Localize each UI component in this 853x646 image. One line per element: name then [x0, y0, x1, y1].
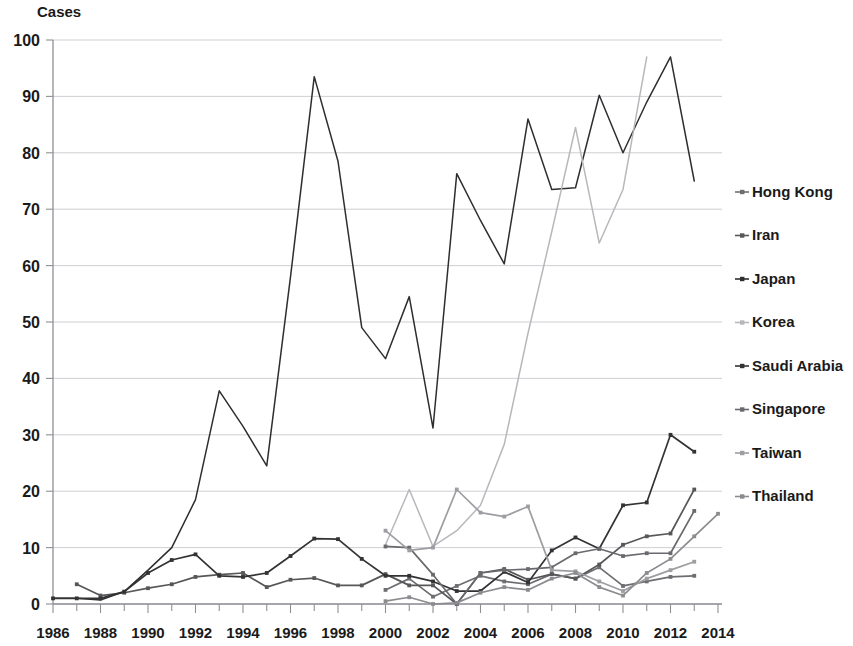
x-axis-tick-label-2008: 2008: [559, 624, 592, 641]
data-point-marker: [241, 575, 245, 579]
series-line-thailand: [386, 514, 719, 604]
data-point-marker: [597, 580, 601, 584]
data-point-marker: [407, 583, 411, 587]
legend-label: Singapore: [752, 400, 825, 417]
data-point-marker: [597, 563, 601, 567]
data-point-marker: [502, 568, 506, 572]
series-singapore: [384, 509, 697, 606]
data-point-marker: [574, 551, 578, 555]
chart-canvas: 0102030405060708090100 19861988199019921…: [0, 0, 853, 646]
x-axis-tick-label-2014: 2014: [701, 624, 735, 641]
data-point-marker: [312, 576, 316, 580]
legend-item-thailand[interactable]: Thailand: [735, 487, 814, 504]
y-axis-tick-label-60: 60: [22, 258, 40, 275]
legend-item-saudi-arabia[interactable]: Saudi Arabia: [735, 357, 844, 374]
data-point-marker: [384, 588, 388, 592]
data-point-marker: [645, 534, 649, 538]
data-point-marker: [384, 529, 388, 533]
data-point-marker: [407, 549, 411, 553]
data-point-marker: [479, 591, 483, 595]
data-point-marker: [692, 534, 696, 538]
legend-label: Japan: [752, 270, 795, 287]
data-point-marker: [265, 571, 269, 575]
data-point-marker: [669, 568, 673, 572]
x-axis-tick-label-1986: 1986: [36, 624, 69, 641]
series-line-korea: [386, 57, 647, 547]
data-point-marker: [336, 583, 340, 587]
data-point-marker: [99, 596, 103, 600]
legend-swatch-marker: [740, 277, 744, 281]
data-point-marker: [716, 512, 720, 516]
legend-swatch-marker: [740, 364, 744, 368]
data-point-marker: [431, 546, 435, 550]
legend-item-taiwan[interactable]: Taiwan: [735, 444, 802, 461]
data-point-marker: [692, 450, 696, 454]
legend-item-iran[interactable]: Iran: [735, 226, 780, 243]
data-point-marker: [621, 543, 625, 547]
data-point-marker: [265, 585, 269, 589]
legend-label: Hong Kong: [752, 183, 833, 200]
data-point-marker: [312, 537, 316, 541]
series-line-singapore: [386, 511, 695, 604]
legend-item-hong-kong[interactable]: Hong Kong: [735, 183, 833, 200]
data-point-marker: [431, 602, 435, 606]
x-axis-tick-label-2012: 2012: [654, 624, 687, 641]
y-axis-tick-label-10: 10: [22, 540, 40, 557]
data-point-marker: [550, 577, 554, 581]
data-point-marker: [241, 571, 245, 575]
data-point-marker: [75, 582, 79, 586]
data-point-marker: [574, 571, 578, 575]
y-axis-tick-label-90: 90: [22, 88, 40, 105]
legend-label: Korea: [752, 313, 795, 330]
data-point-marker: [455, 488, 459, 492]
y-axis-tick-labels: 0102030405060708090100: [13, 32, 40, 613]
y-axis-tick-label-20: 20: [22, 483, 40, 500]
data-point-marker: [431, 595, 435, 599]
legend-item-korea[interactable]: Korea: [735, 313, 795, 330]
data-point-marker: [194, 575, 198, 579]
series-saudi-arabia: [51, 433, 696, 600]
x-axis-tick-labels: 1986198819901992199419961998200020022004…: [36, 624, 735, 641]
data-point-marker: [122, 590, 126, 594]
data-point-marker: [550, 568, 554, 572]
y-axis-tick-label-30: 30: [22, 427, 40, 444]
data-point-marker: [455, 601, 459, 605]
data-point-marker: [479, 571, 483, 575]
data-point-marker: [645, 571, 649, 575]
line-chart: 0102030405060708090100 19861988199019921…: [0, 0, 853, 646]
data-series-group: [51, 57, 720, 606]
data-point-marker: [170, 582, 174, 586]
data-point-marker: [645, 501, 649, 505]
data-point-marker: [431, 580, 435, 584]
data-point-marker: [289, 554, 293, 558]
x-axis-tick-label-2006: 2006: [511, 624, 544, 641]
data-point-marker: [51, 596, 55, 600]
legend-swatch-marker: [740, 190, 744, 194]
legend: Hong KongIranJapanKoreaSaudi ArabiaSinga…: [735, 183, 844, 505]
data-point-marker: [502, 580, 506, 584]
y-axis-tick-label-0: 0: [31, 596, 40, 613]
data-point-marker: [550, 572, 554, 576]
series-korea: [386, 57, 647, 547]
data-point-marker: [692, 574, 696, 578]
data-point-marker: [669, 551, 673, 555]
data-point-marker: [597, 585, 601, 589]
data-point-marker: [502, 585, 506, 589]
x-axis-tick-label-1990: 1990: [131, 624, 164, 641]
legend-label: Thailand: [752, 487, 814, 504]
legend-item-japan[interactable]: Japan: [735, 270, 795, 287]
data-point-marker: [621, 554, 625, 558]
y-axis-tick-label-100: 100: [13, 32, 40, 49]
legend-item-singapore[interactable]: Singapore: [735, 400, 825, 417]
data-point-marker: [669, 557, 673, 561]
legend-label: Saudi Arabia: [752, 357, 844, 374]
data-point-marker: [597, 547, 601, 551]
axis-lines: [46, 40, 722, 613]
data-point-marker: [431, 573, 435, 577]
legend-swatch-marker: [740, 407, 744, 411]
data-point-marker: [526, 588, 530, 592]
legend-label: Iran: [752, 226, 780, 243]
data-point-marker: [526, 505, 530, 509]
data-point-marker: [170, 558, 174, 562]
data-point-marker: [669, 532, 673, 536]
